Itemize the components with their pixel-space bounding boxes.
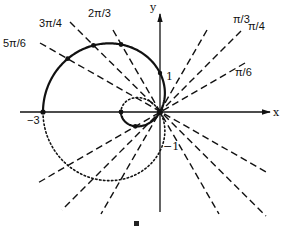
- angle-label-2pi-3: 2π/3: [88, 7, 111, 19]
- line-3pi-4: [70, 22, 266, 216]
- line-pi-3: [101, 30, 207, 214]
- polar-graph-svg: y x −3 1 −1 π/3 π/4 π/6 2π/3 3π/4 5π/6: [0, 0, 283, 226]
- point-theta-3pi-4: [91, 43, 96, 48]
- point-theta-pi-2: [158, 71, 162, 75]
- tick-label-neg1: −1: [163, 140, 179, 153]
- dashed-angle-lines: [36, 22, 268, 216]
- point-theta-0: [119, 110, 124, 115]
- x-axis-label: x: [273, 106, 280, 119]
- angle-label-pi-6: π/6: [235, 66, 252, 78]
- point-theta-pi-6: [133, 124, 138, 129]
- point-theta-5pi-6: [65, 56, 70, 61]
- angle-label-pi-4: π/4: [248, 20, 265, 32]
- point-theta-2pi-3: [119, 42, 124, 47]
- point-theta-pi: [40, 109, 45, 114]
- tick-label-neg3: −3: [27, 114, 40, 126]
- point-origin: [157, 109, 163, 115]
- tick-label-1: 1: [166, 70, 173, 83]
- polar-graph-figure: y x −3 1 −1 π/3 π/4 π/6 2π/3 3π/4 5π/6: [0, 0, 283, 226]
- angle-label-5pi-6: 5π/6: [3, 37, 26, 49]
- line-2pi-3: [113, 30, 219, 214]
- angle-label-3pi-4: 3π/4: [39, 17, 62, 29]
- y-axis-label: y: [149, 1, 157, 14]
- cropped-caption-fragment: [134, 221, 139, 226]
